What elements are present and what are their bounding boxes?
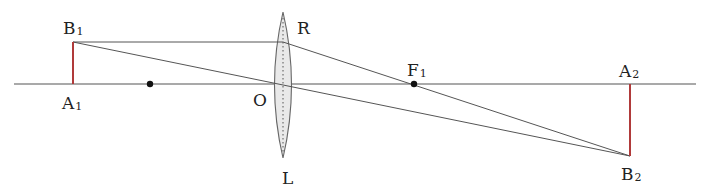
ray-refracted-through-focus [283,42,630,156]
lens-ray-diagram [0,0,704,194]
label-R: R [297,20,310,37]
ray-through-center [73,42,630,156]
focal-point-F1-dot [411,81,417,87]
label-B2: B2 [621,166,642,183]
label-A1: A1 [62,95,82,112]
label-A2: A2 [619,63,639,80]
label-L: L [282,170,293,187]
focal-point-left-dot [147,81,153,87]
label-O: O [253,92,267,109]
label-F1: F1 [407,62,427,79]
label-B1: B1 [63,20,84,37]
